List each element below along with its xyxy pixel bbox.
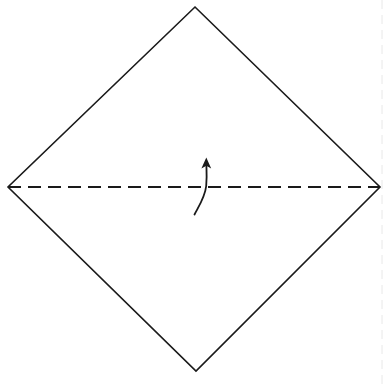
origami-diagram-svg bbox=[0, 0, 387, 387]
origami-diagram-canvas: Square sheet rotated 45 degrees with hor… bbox=[0, 0, 387, 387]
